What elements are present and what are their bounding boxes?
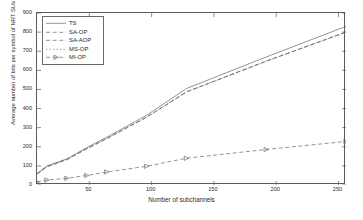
x-tick-label: 250 <box>333 186 342 193</box>
legend-item-label: SA-AOP <box>69 36 91 45</box>
legend-item-label: MI-OP <box>69 53 86 62</box>
y-tick-label: 300 <box>23 124 32 130</box>
x-tick-label: 150 <box>208 186 217 193</box>
series-line-mi-op <box>37 141 346 182</box>
y-tick-label: 800 <box>23 28 32 34</box>
series-marker-mi-op <box>184 156 188 160</box>
legend-item-label: MS-OP <box>69 45 88 54</box>
legend-item-sa-op[interactable]: SA-OP <box>43 28 103 37</box>
legend-line-sample-icon <box>43 53 69 62</box>
x-tick-label: 50 <box>85 186 91 193</box>
legend-line-sample-icon <box>43 36 69 45</box>
x-axis-title: Number of subchannels <box>0 196 363 203</box>
y-tick-label: 200 <box>23 143 32 149</box>
x-axis-tick-labels: 50100150200250 <box>0 186 363 196</box>
legend-line-sample-icon <box>43 45 69 54</box>
y-tick-label: 500 <box>23 85 32 91</box>
legend-item-label: TS <box>69 19 77 28</box>
legend-item-sa-aop[interactable]: SA-AOP <box>43 36 103 45</box>
y-tick-label: 700 <box>23 47 32 53</box>
y-axis-title: Average number of bits per symbol of NRT… <box>10 0 16 138</box>
y-tick-label: 400 <box>23 105 32 111</box>
x-tick-label: 100 <box>146 186 155 193</box>
legend-line-sample-icon <box>43 19 69 28</box>
y-axis-tick-labels: 0100200300400500600700800900 <box>0 0 34 196</box>
chart-figure: 0100200300400500600700800900 Average num… <box>0 0 363 220</box>
legend-item-label: SA-OP <box>69 28 87 37</box>
y-tick-label: 900 <box>23 9 32 15</box>
y-tick-label: 600 <box>23 66 32 72</box>
chart-legend: TSSA-OPSA-AOPMS-OPMI-OP <box>42 16 104 65</box>
x-tick-label: 200 <box>271 186 280 193</box>
legend-line-sample-icon <box>43 28 69 37</box>
legend-item-mi-op[interactable]: MI-OP <box>43 53 103 62</box>
y-tick-label: 100 <box>23 162 32 168</box>
legend-item-ts[interactable]: TS <box>43 19 103 28</box>
legend-item-ms-op[interactable]: MS-OP <box>43 45 103 54</box>
